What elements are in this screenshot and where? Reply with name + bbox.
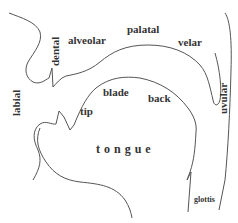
label-alveolar: alveolar	[68, 35, 106, 46]
label-palatal: palatal	[127, 24, 159, 35]
label-dental: dental	[50, 37, 61, 66]
label-glottis: glottis	[194, 196, 215, 204]
label-tongue: tongue	[96, 143, 155, 155]
label-labial: labial	[11, 90, 22, 116]
label-back: back	[148, 93, 171, 104]
label-velar: velar	[178, 37, 202, 48]
vocal-tract-diagram: labial dental alveolar palatal velar uvu…	[0, 0, 238, 223]
label-blade: blade	[103, 87, 129, 98]
label-uvular: uvular	[218, 83, 229, 114]
vocal-tract-outline	[0, 0, 238, 223]
label-tip: tip	[80, 106, 93, 117]
